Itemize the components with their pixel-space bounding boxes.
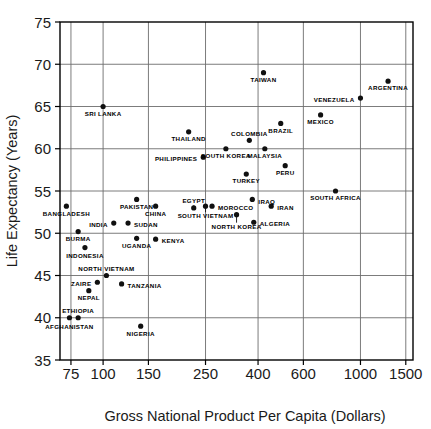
data-point — [119, 281, 124, 286]
x-tick-label: 1500 — [389, 365, 422, 382]
x-tick-label: 75 — [63, 365, 80, 382]
data-point — [101, 104, 106, 109]
point-label: MEXICO — [307, 118, 334, 125]
data-point — [262, 146, 267, 151]
point-label: THAILAND — [171, 135, 206, 142]
y-tick-label: 70 — [34, 56, 51, 73]
x-tick-label: 250 — [193, 365, 218, 382]
data-point — [278, 121, 283, 126]
point-label: ARGENTINA — [368, 84, 408, 91]
point-label: MOROCCO — [218, 204, 253, 211]
point-label: SOUTH VIETNAM — [178, 212, 234, 219]
data-point — [104, 273, 109, 278]
data-point — [67, 315, 72, 320]
point-label: KENYA — [162, 237, 185, 244]
point-label: INDONESIA — [66, 252, 104, 259]
y-tick-label: 60 — [34, 140, 51, 157]
point-labels: SRI LANKATAIWANARGENTINAVENEZUELAMEXICOB… — [43, 76, 408, 338]
data-point — [186, 129, 191, 134]
y-tick-label: 35 — [34, 352, 51, 369]
point-label: TURKEY — [233, 177, 261, 184]
data-point — [64, 204, 69, 209]
data-point — [358, 95, 363, 100]
data-point — [86, 288, 91, 293]
y-tick-labels: 354045505560657075 — [34, 14, 51, 369]
point-label: BANGLADESH — [43, 210, 90, 217]
point-label: TANZANIA — [128, 282, 162, 289]
point-label: PHILIPPINES — [155, 155, 197, 162]
point-label: SOUTH KOREA — [201, 152, 251, 159]
x-axis-title: Gross National Product Per Capita (Dolla… — [104, 408, 385, 424]
data-point — [191, 205, 196, 210]
data-point — [203, 204, 208, 209]
data-point — [234, 212, 239, 217]
data-point — [209, 204, 214, 209]
scatter-chart: 7510015025040060010001500 35404550556065… — [0, 0, 431, 429]
data-point — [333, 188, 338, 193]
y-axis-title: Life Expectancy (Years) — [4, 115, 20, 268]
data-point — [111, 221, 116, 226]
data-point — [138, 324, 143, 329]
point-label: ZAIRE — [71, 280, 91, 287]
point-label: ALGERIA — [260, 220, 290, 227]
point-label: EGYPT — [182, 197, 205, 204]
data-point — [385, 79, 390, 84]
y-tick-label: 45 — [34, 267, 51, 284]
x-tick-labels: 7510015025040060010001500 — [63, 365, 423, 382]
point-label: SRI LANKA — [85, 110, 122, 117]
point-label: NORTH VIETNAM — [78, 265, 134, 272]
point-label: BRAZIL — [268, 127, 293, 134]
x-tick-label: 600 — [291, 365, 316, 382]
data-point — [153, 204, 158, 209]
x-tick-label: 100 — [91, 365, 116, 382]
data-point — [283, 163, 288, 168]
point-label: NIGERIA — [127, 330, 155, 337]
point-label: AFGHANISTAN — [45, 323, 94, 330]
data-point — [76, 229, 81, 234]
point-label: BURMA — [66, 235, 91, 242]
data-point — [261, 70, 266, 75]
grid-lines — [60, 22, 413, 360]
data-point — [82, 245, 87, 250]
data-point — [247, 138, 252, 143]
point-label: CHINA — [145, 210, 167, 217]
point-label: UGANDA — [122, 242, 151, 249]
data-point — [223, 146, 228, 151]
data-point — [153, 237, 158, 242]
point-label: SUDAN — [134, 221, 158, 228]
point-label: ETHIOPIA — [62, 307, 94, 314]
data-point — [76, 315, 81, 320]
y-tick-label: 65 — [34, 98, 51, 115]
point-label: MALAYSIA — [248, 152, 283, 159]
data-point — [125, 221, 130, 226]
data-point — [95, 280, 100, 285]
point-label: INDIA — [89, 221, 108, 228]
y-tick-label: 50 — [34, 225, 51, 242]
point-label: SOUTH AFRICA — [310, 194, 361, 201]
plot-svg: 7510015025040060010001500 35404550556065… — [0, 0, 431, 429]
point-label: PERU — [276, 169, 295, 176]
point-label: IRAN — [277, 204, 294, 211]
data-point — [134, 236, 139, 241]
point-label: NEPAL — [78, 294, 100, 301]
point-label: COLOMBIA — [231, 130, 268, 137]
x-tick-label: 150 — [136, 365, 161, 382]
data-point — [244, 172, 249, 177]
data-point — [318, 112, 323, 117]
point-label: IRAQ — [258, 198, 275, 205]
point-label: PAKISTAN — [120, 203, 154, 210]
data-point — [134, 197, 139, 202]
y-tick-label: 55 — [34, 183, 51, 200]
y-tick-label: 75 — [34, 14, 51, 31]
x-tick-label: 1000 — [344, 365, 377, 382]
point-label: NORTH KOREA — [212, 223, 262, 230]
data-point — [250, 197, 255, 202]
point-label: TAIWAN — [250, 76, 276, 83]
x-tick-label: 400 — [246, 365, 271, 382]
point-label: VENEZUELA — [314, 96, 355, 103]
